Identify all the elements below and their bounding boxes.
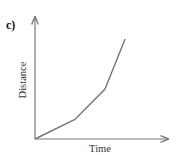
x-axis-label: Time	[89, 143, 111, 154]
y-axis-label: Distance	[17, 62, 28, 99]
distance-time-line	[35, 39, 125, 139]
